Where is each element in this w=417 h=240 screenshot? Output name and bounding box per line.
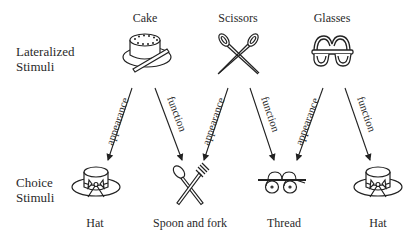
arrow-label-function: function xyxy=(165,94,189,133)
arrow-label-appearance: appearance xyxy=(200,96,227,147)
glasses-icon xyxy=(312,36,353,66)
diagram-canvas: appearance function appearance function … xyxy=(0,0,417,240)
scissors-icon xyxy=(217,32,261,74)
arrow-label-function: function xyxy=(259,95,282,134)
hat-icon xyxy=(354,167,402,197)
hat-icon xyxy=(72,167,120,197)
arrow-label-appearance: appearance xyxy=(293,96,321,147)
arrows xyxy=(108,88,370,160)
spoon-fork-icon xyxy=(171,163,209,205)
arrow-label-appearance: appearance xyxy=(104,96,131,147)
cake-icon xyxy=(123,34,171,72)
thread-icon xyxy=(258,172,306,193)
